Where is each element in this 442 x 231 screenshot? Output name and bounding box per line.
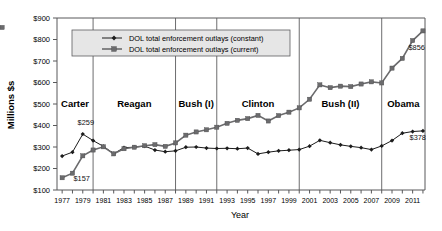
data-point-constant bbox=[266, 150, 270, 154]
annotation-value-157: $157 bbox=[73, 174, 89, 183]
data-point-current bbox=[297, 106, 301, 110]
x-tick-label: 1981 bbox=[96, 197, 112, 204]
y-axis-tick-labels: $100$200$300$400$500$600$700$800$900 bbox=[33, 14, 57, 195]
data-point-current bbox=[204, 128, 208, 132]
data-point-constant bbox=[338, 143, 342, 147]
data-point-current bbox=[101, 145, 105, 149]
x-tick-label: 1995 bbox=[240, 197, 256, 204]
era-label-bush-i: Bush (I) bbox=[178, 98, 213, 109]
x-tick-label: 1997 bbox=[261, 197, 277, 204]
data-point-current bbox=[184, 133, 188, 137]
data-point-current bbox=[215, 125, 219, 129]
x-tick-label: 1993 bbox=[219, 197, 235, 204]
legend-label-current: DOL total enforcement outlays (current) bbox=[129, 45, 259, 54]
data-point-constant bbox=[256, 152, 260, 156]
x-tick-label: 1989 bbox=[178, 197, 194, 204]
data-point-constant bbox=[215, 146, 219, 150]
data-point-current bbox=[132, 145, 136, 149]
legend-marker-current bbox=[112, 47, 117, 52]
era-label-bush-ii: Bush (II) bbox=[321, 98, 359, 109]
data-point-current bbox=[112, 152, 116, 156]
y-tick-label: $800 bbox=[33, 35, 50, 44]
x-tick-label: 2009 bbox=[384, 197, 400, 204]
data-point-constant bbox=[287, 148, 291, 152]
x-tick-label: 1985 bbox=[137, 197, 153, 204]
data-point-current bbox=[421, 29, 425, 33]
data-point-constant bbox=[60, 154, 64, 158]
annotation-value-856: $856 bbox=[409, 43, 425, 52]
x-tick-label: 2007 bbox=[364, 197, 380, 204]
data-point-current bbox=[328, 86, 332, 90]
y-axis-title: Millions $s bbox=[5, 81, 16, 130]
data-point-current bbox=[173, 141, 177, 145]
data-point-current bbox=[349, 84, 353, 88]
x-tick-label: 1979 bbox=[75, 197, 91, 204]
x-tick-label: 1991 bbox=[199, 197, 215, 204]
data-point-constant bbox=[204, 146, 208, 150]
data-point-constant bbox=[153, 148, 157, 152]
enforcement-outlays-line-chart: CarterReaganBush (I)ClintonBush (II)Obam… bbox=[0, 0, 442, 231]
data-point-current bbox=[380, 81, 384, 85]
y-tick-label: $100 bbox=[33, 186, 50, 195]
annotation-value-378: $378 bbox=[410, 133, 426, 142]
x-tick-label: 2001 bbox=[302, 197, 318, 204]
data-point-current bbox=[0, 25, 4, 29]
y-tick-label: $900 bbox=[33, 14, 50, 23]
data-point-constant bbox=[318, 138, 322, 142]
data-point-constant bbox=[173, 149, 177, 153]
x-tick-label: 1987 bbox=[157, 197, 173, 204]
x-tick-label: 2003 bbox=[322, 197, 338, 204]
data-point-constant bbox=[297, 147, 301, 151]
data-point-current bbox=[369, 80, 373, 84]
data-point-annotations: $157$259$856$378 bbox=[73, 43, 425, 184]
data-point-constant bbox=[380, 144, 384, 148]
chart-container: CarterReaganBush (I)ClintonBush (II)Obam… bbox=[0, 0, 442, 231]
data-point-constant bbox=[163, 150, 167, 154]
data-point-current bbox=[338, 84, 342, 88]
data-point-current bbox=[91, 148, 95, 152]
data-point-current bbox=[235, 118, 239, 122]
data-point-current bbox=[60, 176, 64, 180]
x-axis-title: Year bbox=[231, 210, 249, 220]
data-point-current bbox=[287, 110, 291, 114]
data-point-current bbox=[153, 143, 157, 147]
data-point-constant bbox=[70, 150, 74, 154]
data-point-constant bbox=[225, 146, 229, 150]
era-label-carter: Carter bbox=[61, 98, 89, 109]
legend-label-constant: DOL total enforcement outlays (constant) bbox=[129, 34, 263, 43]
data-point-current bbox=[256, 113, 260, 117]
x-tick-label: 1999 bbox=[281, 197, 297, 204]
data-point-current bbox=[359, 82, 363, 86]
y-tick-label: $200 bbox=[33, 164, 50, 173]
data-point-current bbox=[390, 66, 394, 70]
x-tick-label: 1977 bbox=[54, 197, 70, 204]
data-point-current bbox=[400, 56, 404, 60]
y-tick-label: $600 bbox=[33, 78, 50, 87]
data-point-current bbox=[266, 119, 270, 123]
data-point-current bbox=[163, 144, 167, 148]
data-point-current bbox=[307, 97, 311, 101]
data-point-current bbox=[122, 147, 126, 151]
x-axis-tick-labels: 1977197919811983198519871989199119931995… bbox=[54, 190, 423, 204]
era-label-reagan: Reagan bbox=[117, 98, 152, 109]
data-point-current bbox=[246, 117, 250, 121]
era-label-obama: Obama bbox=[387, 98, 420, 109]
data-point-constant bbox=[235, 147, 239, 151]
data-point-constant bbox=[246, 146, 250, 150]
data-point-current bbox=[318, 83, 322, 87]
x-tick-label: 2011 bbox=[405, 197, 420, 204]
y-tick-label: $400 bbox=[33, 121, 50, 130]
annotation-value-259: $259 bbox=[78, 118, 94, 127]
data-point-constant bbox=[349, 144, 353, 148]
era-labels: CarterReaganBush (I)ClintonBush (II)Obam… bbox=[61, 98, 420, 109]
y-tick-label: $500 bbox=[33, 100, 50, 109]
data-point-constant bbox=[194, 145, 198, 149]
chart-legend: DOL total enforcement outlays (constant)… bbox=[72, 30, 290, 56]
era-label-clinton: Clinton bbox=[242, 98, 275, 109]
data-point-constant bbox=[307, 144, 311, 148]
data-point-current bbox=[194, 130, 198, 134]
data-point-constant bbox=[328, 141, 332, 145]
data-point-constant bbox=[184, 145, 188, 149]
x-tick-label: 2005 bbox=[343, 197, 359, 204]
data-point-current bbox=[81, 154, 85, 158]
